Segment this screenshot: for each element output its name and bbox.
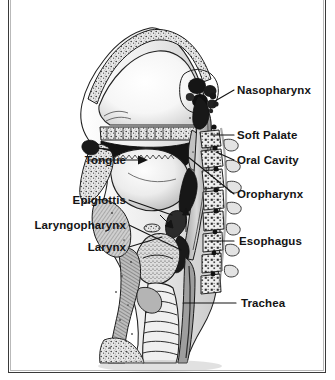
label-oral-cavity: Oral Cavity <box>237 154 299 166</box>
label-laryngopharynx: Laryngopharynx <box>0 219 126 231</box>
illustration-shadow <box>98 360 222 372</box>
figure-canvas: Nasopharynx Soft Palate Oral Cavity Orop… <box>0 0 335 380</box>
label-epiglottis: Epiglottis <box>0 194 126 206</box>
label-esophagus: Esophagus <box>239 235 302 247</box>
label-soft-palate: Soft Palate <box>237 129 298 141</box>
label-larynx: Larynx <box>0 241 126 253</box>
hard-palate <box>100 127 197 140</box>
label-oropharynx: Oropharynx <box>237 188 303 200</box>
lips <box>82 140 99 155</box>
label-nasopharynx: Nasopharynx <box>237 84 311 96</box>
label-trachea: Trachea <box>241 297 285 309</box>
thoracic-inlet-tissue <box>100 338 144 363</box>
hyoid-bone <box>144 224 160 232</box>
label-tongue: Tongue <box>0 154 126 166</box>
